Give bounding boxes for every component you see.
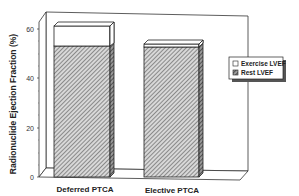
y-tick-40: 40	[26, 75, 34, 82]
legend-swatch-rest	[233, 70, 238, 75]
legend: Exercise LVEF Rest LVEF	[229, 57, 286, 82]
bar-deferred-ptca	[54, 22, 114, 177]
x-label-elective-ptca: Elective PTCA	[145, 186, 199, 195]
y-axis-title: Radionuclide Ejection Fraction (%)	[8, 34, 18, 174]
y-axis: 0 20 40 60 Radionuclide Ejection Fractio…	[8, 26, 39, 181]
y-tick-0: 0	[30, 174, 34, 181]
bar-elective-ptca	[144, 40, 203, 177]
legend-label-exercise: Exercise LVEF	[241, 60, 286, 67]
x-label-deferred-ptca: Deferred PTCA	[57, 185, 114, 194]
legend-label-rest: Rest LVEF	[241, 69, 273, 76]
legend-swatch-exercise	[233, 61, 238, 66]
y-tick-20: 20	[26, 125, 34, 132]
bar-chart: 0 20 40 60 Radionuclide Ejection Fractio…	[0, 0, 299, 196]
y-tick-60: 60	[26, 26, 34, 33]
